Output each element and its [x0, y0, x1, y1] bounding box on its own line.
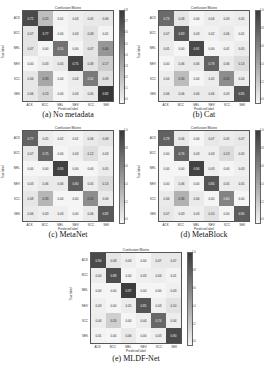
matrix-cell: 0.03 — [166, 283, 181, 298]
matrix-cell: 0.07 — [83, 41, 98, 56]
matrix-cell: 0.85 — [136, 298, 151, 313]
colorbar-tick: 0.0 — [124, 99, 128, 102]
panel-caption: (d) MetaBlock — [136, 230, 272, 239]
matrix-cell: 0.52 — [83, 71, 98, 86]
matrix-cell: 0.07 — [151, 253, 166, 268]
colorbar-tick: 1.0 — [260, 130, 264, 133]
matrix-cell: 0.73 — [159, 11, 174, 26]
y-tick-labels: ACKBCCMELNEVSCCSEK — [76, 252, 89, 344]
y-tick-label: SEK — [8, 207, 21, 222]
matrix-cell: 0.13 — [98, 176, 113, 191]
colorbar-tick: 0.7 — [124, 21, 128, 24]
colorbar-tick: 0.0 — [260, 99, 264, 102]
matrix-cell: 0.00 — [106, 298, 121, 313]
matrix-cell: 0.03 — [219, 11, 234, 26]
panel-caption: (a) No metadata — [0, 110, 136, 119]
matrix-cell: 0.05 — [219, 131, 234, 146]
matrix-cell: 0.83 — [174, 26, 189, 41]
matrix-cell: 0.00 — [68, 161, 83, 176]
matrix-cell: 0.00 — [53, 26, 68, 41]
matrix-cell: 0.00 — [219, 161, 234, 176]
confusion-matrix-panel: Confusion MatrixACKBCCMELNEVSCCSEKTrue l… — [136, 120, 272, 242]
y-tick-label: SCC — [8, 191, 21, 206]
matrix-grid: 0.730.080.000.040.030.050.070.830.030.02… — [158, 10, 250, 102]
matrix-cell: 0.40 — [98, 41, 113, 56]
matrix-cell: 0.03 — [68, 146, 83, 161]
matrix-cell: 0.00 — [151, 283, 166, 298]
matrix-cell: 0.77 — [38, 26, 53, 41]
matrix-cell: 0.03 — [151, 328, 166, 343]
matrix-cell: 0.00 — [53, 146, 68, 161]
matrix-cell: 0.03 — [234, 161, 249, 176]
matrix-cell: 0.03 — [68, 26, 83, 41]
y-tick-labels: ACKBCCMELNEVSCCSEK — [144, 10, 157, 102]
matrix-cell: 0.01 — [219, 41, 234, 56]
y-tick-label: MEL — [76, 283, 89, 298]
matrix-cell: 0.10 — [204, 206, 219, 221]
matrix-cell: 0.85 — [234, 86, 249, 101]
matrix-cell: 0.13 — [38, 86, 53, 101]
y-axis-title: True label — [1, 45, 5, 58]
matrix-cell: 0.06 — [174, 176, 189, 191]
matrix-cell: 0.08 — [174, 11, 189, 26]
matrix-cell: 0.06 — [174, 86, 189, 101]
y-tick-label: BCC — [8, 25, 21, 40]
y-axis-title: True label — [69, 287, 73, 300]
y-tick-label: MEL — [8, 161, 21, 176]
matrix-cell: 0.33 — [38, 71, 53, 86]
matrix-cell: 0.04 — [68, 71, 83, 86]
matrix-cell: 0.00 — [53, 71, 68, 86]
matrix-cell: 0.09 — [98, 131, 113, 146]
matrix-cell: 0.06 — [83, 131, 98, 146]
matrix-cell: 0.06 — [174, 131, 189, 146]
colorbar-tick: 0.8 — [192, 270, 196, 273]
matrix-grid: 0.780.060.000.070.050.070.000.760.030.03… — [158, 130, 250, 222]
matrix-cell: 0.00 — [23, 56, 38, 71]
colorbar-ticks: 1.00.80.60.40.20.0 — [124, 130, 128, 222]
matrix-cell: 0.80 — [234, 206, 249, 221]
matrix-cell: 0.06 — [98, 11, 113, 26]
colorbar-tick: 1.0 — [260, 10, 264, 13]
matrix-cell: 0.00 — [189, 131, 204, 146]
colorbar-tick: 0.8 — [260, 148, 264, 151]
matrix-cell: 0.88 — [106, 268, 121, 283]
matrix-grid: 0.900.080.030.000.070.070.040.880.000.03… — [90, 252, 182, 344]
y-tick-label: NEV — [8, 176, 21, 191]
matrix-cell: 0.23 — [38, 11, 53, 26]
matrix-cell: 0.05 — [83, 176, 98, 191]
colorbar-tick: 0.8 — [260, 28, 264, 31]
y-tick-label: NEV — [144, 56, 157, 71]
matrix-cell: 0.13 — [234, 56, 249, 71]
matrix-cell: 0.03 — [204, 146, 219, 161]
matrix-cell: 0.94 — [189, 161, 204, 176]
colorbar-tick: 0.1 — [124, 88, 128, 91]
matrix-cell: 0.00 — [38, 41, 53, 56]
y-tick-label: ACK — [8, 10, 21, 25]
matrix-cell: 0.03 — [219, 86, 234, 101]
matrix-cell: 0.03 — [204, 161, 219, 176]
y-tick-label: SEK — [8, 87, 21, 102]
matrix-cell: 0.06 — [159, 191, 174, 206]
y-tick-label: NEV — [8, 56, 21, 71]
y-tick-label: SCC — [144, 71, 157, 86]
matrix-cell: 0.02 — [204, 26, 219, 41]
y-tick-label: BCC — [76, 267, 89, 282]
matrix-grid: 0.720.230.010.030.050.060.070.770.000.03… — [22, 10, 114, 102]
matrix-cell: 0.90 — [166, 328, 181, 343]
matrix-cell: 0.00 — [136, 328, 151, 343]
matrix-cell: 0.05 — [98, 161, 113, 176]
matrix-cell: 0.04 — [234, 71, 249, 86]
matrix-grid: 0.770.050.020.010.060.090.070.750.000.03… — [22, 130, 114, 222]
colorbar-tick: 0.6 — [260, 166, 264, 169]
matrix-cell: 0.30 — [174, 71, 189, 86]
y-tick-label: ACK — [144, 130, 157, 145]
colorbar-tick: 0.0 — [260, 219, 264, 222]
matrix-cell: 0.00 — [159, 161, 174, 176]
matrix-cell: 0.03 — [189, 26, 204, 41]
matrix-cell: 0.00 — [189, 176, 204, 191]
colorbar-tick: 0.2 — [260, 82, 264, 85]
matrix-cell: 0.06 — [23, 206, 38, 221]
y-tick-label: ACK — [144, 10, 157, 25]
y-tick-label: SCC — [144, 191, 157, 206]
matrix-cell: 0.06 — [219, 26, 234, 41]
